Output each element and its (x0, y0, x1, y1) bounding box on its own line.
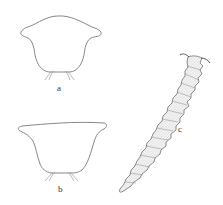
figure-canvas (0, 0, 223, 205)
segment-outline-b (18, 122, 106, 173)
panel-label-c: c (178, 125, 182, 134)
panel-c-drawing (119, 54, 210, 192)
segment-outline-a (21, 16, 101, 72)
panel-label-b: b (58, 185, 63, 194)
panel-b-drawing (18, 122, 106, 181)
panel-a-drawing (21, 16, 101, 80)
panel-label-a: a (57, 84, 61, 93)
